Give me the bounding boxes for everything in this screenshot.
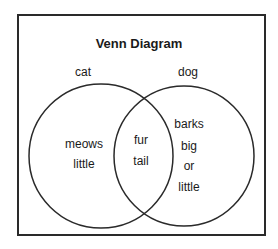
cat-label: cat [53,62,113,82]
dog-item-big: big [159,136,219,156]
dog-item-or: or [159,156,219,176]
diagram-title: Venn Diagram [0,36,278,51]
cat-item-little: little [54,154,114,174]
dog-label: dog [158,62,218,82]
dog-item-barks: barks [159,114,219,134]
dog-item-little: little [159,177,219,197]
cat-item-meows: meows [54,134,114,154]
